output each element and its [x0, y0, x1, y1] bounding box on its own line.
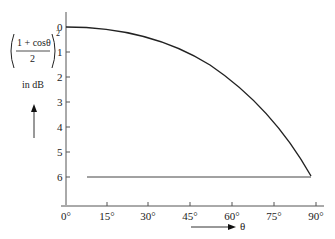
x-tick-label: 30° — [140, 211, 155, 222]
x-axis-ticks — [107, 202, 316, 206]
x-tick-label: 0° — [61, 211, 71, 222]
x-tick-label: 75° — [266, 211, 281, 222]
ylabel-unit: in dB — [22, 80, 44, 90]
y-tick-label: 4 — [57, 122, 63, 133]
x-tick-label: 60° — [224, 211, 239, 222]
y-tick-label: 5 — [57, 147, 63, 158]
x-tick-label: 90° — [308, 211, 323, 222]
ylabel-numerator: 1 + cosθ — [17, 38, 51, 48]
y-tick-label: 1 — [57, 47, 63, 58]
ylabel-denominator: 2 — [30, 54, 35, 64]
y-tick-label: 3 — [57, 97, 63, 108]
y-tick-label: 2 — [57, 72, 63, 83]
chart-canvas — [0, 0, 335, 239]
y-axis-ticks — [66, 52, 70, 177]
arrow-right-icon — [228, 224, 236, 230]
x-tick-label: 45° — [182, 211, 197, 222]
ylabel-exponent: 2 — [56, 30, 60, 38]
x-axis-label: θ — [240, 221, 245, 232]
y-tick-label: 6 — [57, 172, 63, 183]
data-curve — [66, 27, 311, 176]
x-tick-label: 15° — [99, 211, 114, 222]
left-paren — [11, 34, 14, 68]
right-paren — [52, 34, 55, 68]
arrow-up-icon — [31, 104, 37, 112]
